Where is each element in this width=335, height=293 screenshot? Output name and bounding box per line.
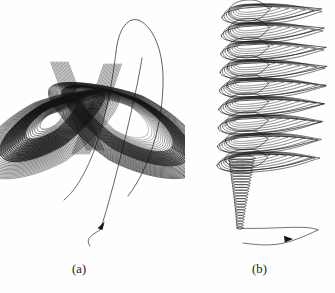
trajectory-segment xyxy=(236,213,245,216)
trajectory-segment xyxy=(243,230,318,245)
trajectory-segment xyxy=(237,224,243,226)
panel-a-caption: (a) xyxy=(72,262,86,277)
trajectory-segment xyxy=(229,0,270,21)
lorenz-transient-arrowhead xyxy=(98,222,105,230)
trajectory-segment xyxy=(236,210,245,213)
trajectory-segment xyxy=(235,201,247,204)
trajectory-segment xyxy=(237,221,244,223)
rossler-orbit-group xyxy=(217,0,327,173)
lorenz-attractor-plot xyxy=(0,0,185,255)
trajectory-segment xyxy=(237,218,244,220)
trajectory-segment xyxy=(236,207,246,210)
panel-b-caption: (b) xyxy=(252,262,267,277)
trajectory-segment xyxy=(236,216,244,218)
lorenz-orbit-group xyxy=(0,20,185,200)
rossler-attractor-plot xyxy=(195,0,335,255)
trajectory-segment xyxy=(235,204,246,207)
rossler-transient-group xyxy=(237,227,318,245)
trajectory-segment xyxy=(237,227,318,230)
figure-root: (a) (b) xyxy=(0,0,335,293)
